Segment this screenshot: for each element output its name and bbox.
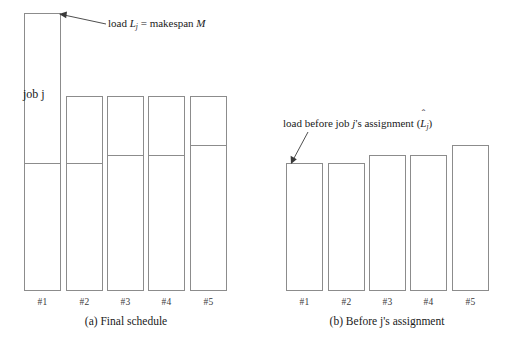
annotation-makespan: load Lj = makespan M [108, 17, 206, 31]
annotation-hat-group: ̂L [420, 117, 426, 129]
bar-machine-1 [24, 13, 61, 291]
panel-final-schedule: load Lj = makespan M job j #1 #2 #3 #4 #… [0, 0, 260, 340]
annotation-symbol-M: M [196, 17, 205, 29]
annotation-prev-load: load before job j's assignment (̂Lj) [283, 117, 432, 131]
machine-label-prev-1: #1 [286, 297, 323, 307]
caption-panel-b-suffix: 's assignment [383, 315, 444, 327]
caption-panel-b-prefix: (b) Before [330, 315, 380, 327]
bar-machine-3 [107, 96, 144, 291]
machine-label-5: #5 [190, 297, 227, 307]
job-j-label-symbol: j [41, 87, 44, 101]
job-j-label: job j [23, 87, 45, 102]
annotation-prev-prefix: load before job [283, 117, 352, 129]
caption-panel-a: (a) Final schedule [0, 315, 252, 327]
machine-label-prev-5: #5 [452, 297, 489, 307]
bar-machine-5 [190, 96, 227, 291]
bar-prev-machine-4 [410, 155, 447, 291]
annotation-makespan-prefix: load [108, 17, 130, 29]
divider-machine-5 [190, 145, 227, 146]
panel-before-assignment: load before job j's assignment (̂Lj) #1 … [258, 0, 518, 340]
machine-label-prev-2: #2 [328, 297, 365, 307]
divider-machine-1 [24, 163, 61, 164]
figure-root: load Lj = makespan M job j #1 #2 #3 #4 #… [0, 0, 518, 340]
machine-label-4: #4 [148, 297, 185, 307]
annotation-prev-middle: 's assignment ( [355, 117, 420, 129]
bar-prev-machine-2 [328, 163, 365, 291]
annotation-arrow-a [58, 8, 108, 32]
machine-label-3: #3 [107, 297, 144, 307]
machine-label-prev-3: #3 [369, 297, 406, 307]
bar-machine-4 [148, 96, 185, 291]
annotation-prev-suffix: ) [429, 117, 433, 129]
bar-prev-machine-5 [452, 145, 489, 291]
caption-panel-b: (b) Before j's assignment [258, 315, 516, 327]
bar-prev-machine-1 [286, 163, 323, 291]
divider-machine-3 [107, 155, 144, 156]
annotation-hat-symbol-L: L [420, 117, 426, 129]
machine-label-2: #2 [66, 297, 103, 307]
bar-machine-2 [66, 96, 103, 291]
job-j-label-prefix: job [23, 87, 41, 101]
machine-label-prev-4: #4 [410, 297, 447, 307]
annotation-makespan-middle: = makespan [138, 17, 196, 29]
annotation-arrow-b [284, 130, 324, 166]
machine-label-1: #1 [24, 297, 61, 307]
bar-prev-machine-3 [369, 155, 406, 291]
divider-machine-4 [148, 155, 185, 156]
divider-machine-2 [66, 163, 103, 164]
